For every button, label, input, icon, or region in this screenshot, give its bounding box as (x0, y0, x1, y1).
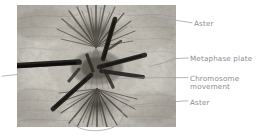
micrograph-svg (17, 5, 176, 127)
label-aster-bottom: Aster (190, 99, 210, 107)
label-chromosome-movement-line2: movement (190, 82, 230, 91)
leader-line-left-extension (2, 75, 17, 77)
micrograph-image (17, 5, 176, 127)
label-metaphase-plate: Metaphase plate (190, 55, 252, 63)
label-chromosome-movement: Chromosome movement (190, 75, 254, 92)
annotated-micrograph-figure: Aster Metaphase plate Chromosome movemen… (0, 0, 259, 137)
label-aster-top: Aster (194, 20, 214, 28)
